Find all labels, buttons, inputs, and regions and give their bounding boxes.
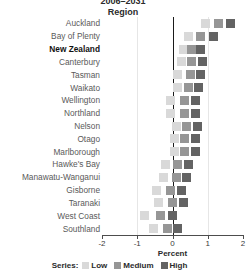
data-marker: [172, 122, 181, 131]
legend-item[interactable]: High: [161, 261, 188, 270]
data-marker: [173, 70, 182, 79]
data-marker: [187, 45, 196, 54]
data-marker: [214, 19, 223, 28]
category-label: New Zealand: [0, 44, 100, 54]
data-marker: [191, 96, 200, 105]
data-marker: [159, 173, 168, 182]
data-marker: [193, 122, 202, 131]
data-marker: [154, 198, 163, 207]
x-axis-title: Percent: [102, 249, 243, 258]
data-marker: [179, 45, 188, 54]
data-marker: [166, 109, 175, 118]
data-marker: [140, 211, 149, 220]
x-axis-tick-label: 0: [163, 239, 183, 248]
data-marker: [182, 122, 191, 131]
data-marker: [163, 224, 172, 233]
category-label: West Coast: [0, 211, 100, 221]
data-marker: [180, 109, 189, 118]
category-label: Hawke's Bay: [0, 159, 100, 169]
legend-swatch-icon: [114, 262, 121, 269]
gridline: [208, 17, 209, 235]
category-label: Southland: [0, 224, 100, 234]
chart-legend: Series:LowMediumHigh: [0, 261, 246, 270]
data-marker: [184, 32, 193, 41]
data-marker: [180, 134, 189, 143]
data-marker: [172, 173, 181, 182]
x-axis-tick-label: -2: [92, 239, 112, 248]
data-marker: [191, 147, 200, 156]
plot-area: [102, 17, 243, 235]
data-marker: [166, 186, 175, 195]
legend-label: Low: [91, 261, 107, 270]
data-marker: [209, 32, 218, 41]
chart-subtitle: Region: [0, 7, 246, 17]
data-marker: [194, 83, 203, 92]
legend-swatch-icon: [82, 262, 89, 269]
dot-plot-chart: 2006–2031 Region AucklandBay of PlentyNe…: [0, 0, 246, 277]
data-marker: [180, 96, 189, 105]
data-marker: [201, 19, 210, 28]
data-marker: [191, 109, 200, 118]
data-marker: [166, 96, 175, 105]
legend-swatch-icon: [161, 262, 168, 269]
data-marker: [161, 160, 170, 169]
data-marker: [187, 57, 196, 66]
data-marker: [196, 32, 205, 41]
data-marker: [168, 198, 177, 207]
category-label: Manawatu-Wanganui: [0, 172, 100, 182]
x-axis-tick-label: -1: [127, 239, 147, 248]
category-axis-labels: AucklandBay of PlentyNew ZealandCanterbu…: [0, 17, 100, 235]
category-label: Marlborough: [0, 147, 100, 157]
category-label: Auckland: [0, 18, 100, 28]
category-label: Canterbury: [0, 57, 100, 67]
legend-label: Medium: [123, 261, 153, 270]
data-marker: [191, 134, 200, 143]
x-axis-tick-label: 2: [233, 239, 246, 248]
data-marker: [170, 147, 179, 156]
x-axis-tick-label: 1: [198, 239, 218, 248]
data-marker: [173, 224, 182, 233]
category-label: Northland: [0, 108, 100, 118]
data-marker: [170, 134, 179, 143]
data-marker: [177, 186, 186, 195]
data-marker: [180, 147, 189, 156]
data-marker: [168, 211, 177, 220]
data-marker: [186, 70, 195, 79]
category-label: Bay of Plenty: [0, 31, 100, 41]
data-marker: [173, 160, 182, 169]
category-label: Wellington: [0, 95, 100, 105]
data-marker: [149, 224, 158, 233]
data-marker: [182, 173, 191, 182]
category-label: Gisborne: [0, 185, 100, 195]
category-label: Tasman: [0, 70, 100, 80]
data-marker: [196, 70, 205, 79]
data-marker: [156, 211, 165, 220]
legend-item[interactable]: Medium: [114, 261, 153, 270]
data-marker: [179, 198, 188, 207]
data-marker: [173, 83, 182, 92]
data-marker: [226, 19, 235, 28]
data-marker: [196, 45, 205, 54]
category-label: Nelson: [0, 121, 100, 131]
legend-title: Series:: [52, 261, 79, 270]
legend-label: High: [170, 261, 188, 270]
chart-title: 2006–2031: [0, 0, 246, 6]
data-marker: [177, 57, 186, 66]
category-label: Otago: [0, 134, 100, 144]
data-marker: [152, 186, 161, 195]
data-marker: [184, 83, 193, 92]
gridline: [137, 17, 138, 235]
category-label: Taranaki: [0, 198, 100, 208]
legend-item[interactable]: Low: [82, 261, 107, 270]
category-label: Waikato: [0, 83, 100, 93]
data-marker: [184, 160, 193, 169]
data-marker: [198, 57, 207, 66]
